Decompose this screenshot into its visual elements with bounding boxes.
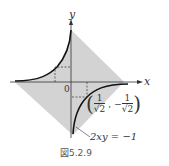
curve-label-leader [76,127,90,137]
origin-label: 0 [64,84,70,94]
point-label: ( 1 √2 , − 1 √2 ) [86,93,141,114]
y-axis-label: y [69,8,75,21]
x-axis-label: x [144,75,150,88]
figure-caption: 図5.2.9 [60,146,92,159]
x-axis-arrow-icon [137,80,143,84]
curve-equation-label: 2xy = −1 [90,131,137,142]
shaded-region-upper [71,30,124,82]
